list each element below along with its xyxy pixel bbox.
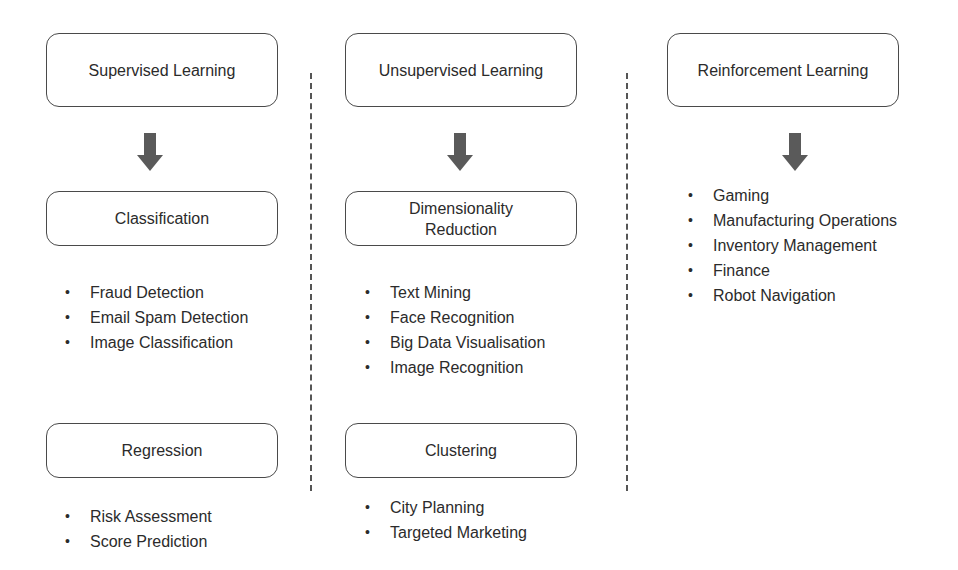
clustering-title: Clustering: [425, 440, 497, 461]
clustering-box: Clustering: [345, 423, 577, 478]
list-item: Image Classification: [63, 330, 248, 355]
list-item: Text Mining: [363, 280, 545, 305]
supervised-learning-box: Supervised Learning: [46, 33, 278, 107]
supervised-learning-title: Supervised Learning: [89, 60, 236, 81]
clustering-list: City Planning Targeted Marketing: [363, 495, 527, 545]
down-arrow-icon: [137, 133, 163, 171]
unsupervised-learning-box: Unsupervised Learning: [345, 33, 577, 107]
list-item: Gaming: [686, 183, 897, 208]
list-item: Score Prediction: [63, 529, 212, 554]
regression-title: Regression: [122, 440, 203, 461]
reinforcement-list: Gaming Manufacturing Operations Inventor…: [686, 183, 897, 308]
down-arrow-icon: [447, 133, 473, 171]
regression-list: Risk Assessment Score Prediction: [63, 504, 212, 554]
list-item: Big Data Visualisation: [363, 330, 545, 355]
list-item: Robot Navigation: [686, 283, 897, 308]
list-item: Fraud Detection: [63, 280, 248, 305]
dimensionality-reduction-box: Dimensionality Reduction: [345, 191, 577, 246]
list-item: Finance: [686, 258, 897, 283]
list-item: Image Recognition: [363, 355, 545, 380]
list-item: Targeted Marketing: [363, 520, 527, 545]
dimensionality-reduction-list: Text Mining Face Recognition Big Data Vi…: [363, 280, 545, 380]
list-item: Email Spam Detection: [63, 305, 248, 330]
list-item: Inventory Management: [686, 233, 897, 258]
dimensionality-reduction-title: Dimensionality Reduction: [386, 198, 536, 240]
list-item: City Planning: [363, 495, 527, 520]
list-item: Face Recognition: [363, 305, 545, 330]
classification-list: Fraud Detection Email Spam Detection Ima…: [63, 280, 248, 355]
classification-box: Classification: [46, 191, 278, 246]
unsupervised-learning-title: Unsupervised Learning: [379, 60, 544, 81]
down-arrow-icon: [782, 133, 808, 171]
classification-title: Classification: [115, 208, 209, 229]
list-item: Risk Assessment: [63, 504, 212, 529]
reinforcement-learning-title: Reinforcement Learning: [698, 60, 869, 81]
list-item: Manufacturing Operations: [686, 208, 897, 233]
column-divider: [626, 73, 628, 491]
regression-box: Regression: [46, 423, 278, 478]
column-divider: [310, 73, 312, 491]
reinforcement-learning-box: Reinforcement Learning: [667, 33, 899, 107]
